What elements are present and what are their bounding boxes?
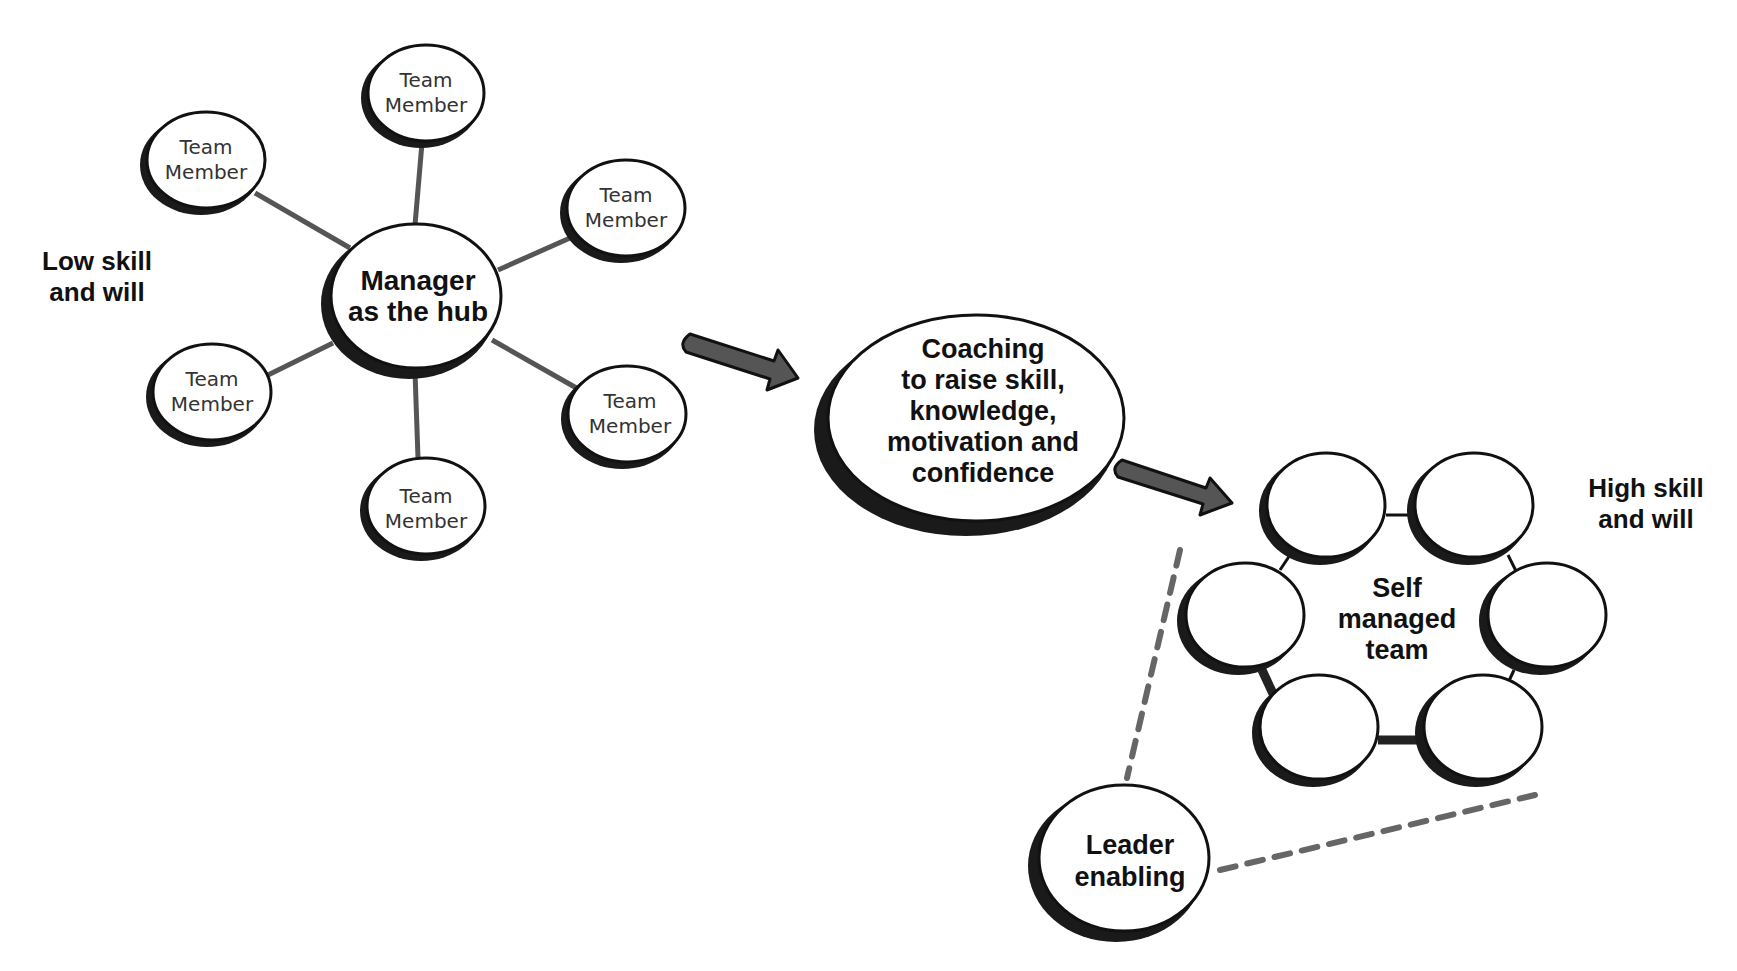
team-member-label: Member xyxy=(165,160,248,184)
svg-text:High skill: High skill xyxy=(1588,473,1704,503)
svg-text:and will: and will xyxy=(49,277,144,307)
team-member-label: Team xyxy=(399,484,453,508)
team-member-label: Team xyxy=(599,183,653,207)
coaching-label: Coaching xyxy=(921,334,1044,364)
leader-dashed-line xyxy=(1220,795,1535,870)
svg-text:Self: Self xyxy=(1372,573,1423,603)
team-member-node: Team Member xyxy=(146,344,271,447)
self-managed-team-member xyxy=(1259,453,1385,565)
leader-dashed-line xyxy=(1127,550,1180,778)
team-member-label: Member xyxy=(385,93,468,117)
coaching-label: to raise skill, xyxy=(901,365,1065,395)
team-member-node: Team Member xyxy=(361,45,484,148)
leader-label: Leader xyxy=(1086,830,1175,860)
leader-enabling-node: Leader enabling xyxy=(1028,785,1209,942)
spoke-top xyxy=(415,143,422,225)
coaching-label: knowledge, xyxy=(909,396,1056,426)
hub-label: as the hub xyxy=(348,296,488,327)
spoke-upper-left xyxy=(255,193,350,248)
svg-text:Low skill: Low skill xyxy=(42,246,152,276)
self-managed-team-member xyxy=(1177,563,1304,675)
hub-label: Manager xyxy=(360,265,475,296)
self-managed-team-label: Self managed team xyxy=(1338,573,1457,665)
high-skill-label: High skill and will xyxy=(1588,473,1704,534)
spoke-lower-right xyxy=(492,340,580,390)
low-skill-label: Low skill and will xyxy=(42,246,152,307)
team-member-label: Team xyxy=(399,68,453,92)
team-member-label: Team xyxy=(185,367,239,391)
spoke-lower-left xyxy=(268,343,333,375)
svg-text:managed: managed xyxy=(1338,604,1457,634)
arrow-right-icon xyxy=(683,334,798,390)
self-managed-team-member xyxy=(1407,453,1533,565)
team-member-label: Member xyxy=(171,392,254,416)
diagram-canvas: Team Member Team Member Team Member Team… xyxy=(0,0,1737,971)
team-member-node: Team Member xyxy=(140,112,265,215)
self-managed-team-member xyxy=(1479,563,1606,675)
spoke-bottom xyxy=(415,372,418,458)
leader-label: enabling xyxy=(1074,862,1185,892)
svg-text:and will: and will xyxy=(1598,504,1693,534)
team-member-label: Member xyxy=(385,509,468,533)
coaching-node: Coaching to raise skill, knowledge, moti… xyxy=(814,315,1124,536)
team-member-label: Team xyxy=(603,389,657,413)
team-member-label: Team xyxy=(179,135,233,159)
coaching-label: confidence xyxy=(912,458,1055,488)
coaching-label: motivation and xyxy=(887,427,1079,457)
team-member-label: Member xyxy=(589,414,672,438)
spoke-upper-right xyxy=(498,238,570,270)
team-member-node: Team Member xyxy=(560,160,685,263)
team-member-node: Team Member xyxy=(360,458,485,561)
arrow-right-icon xyxy=(1115,460,1232,515)
svg-text:team: team xyxy=(1365,635,1428,665)
team-member-label: Member xyxy=(585,208,668,232)
team-member-node: Team Member xyxy=(561,366,686,469)
self-managed-team-member xyxy=(1415,675,1542,787)
